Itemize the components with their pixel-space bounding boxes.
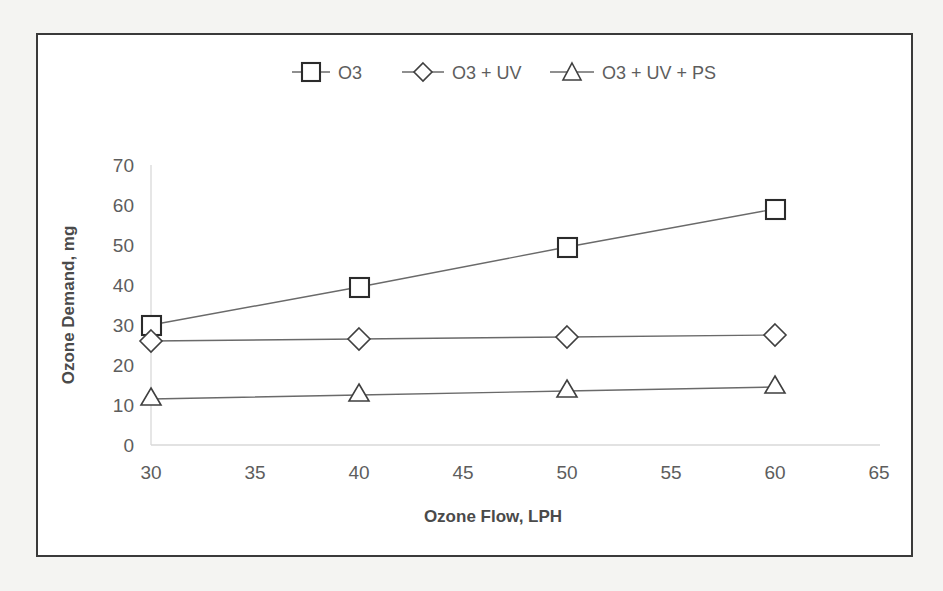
chart-frame: O3 O3 + UV O3 + UV + PS 70 60 <box>36 33 913 557</box>
series-line-o3-uv <box>151 335 775 341</box>
y-axis-tick-labels: 70 60 50 40 30 20 10 0 <box>113 155 134 456</box>
y-axis-title: Ozone Demand, mg <box>59 226 78 385</box>
page-root: O3 O3 + UV O3 + UV + PS 70 60 <box>0 0 943 591</box>
chart-legend: O3 O3 + UV O3 + UV + PS <box>292 63 716 83</box>
data-point-o3-40 <box>350 278 369 297</box>
legend-item-o3[interactable]: O3 <box>292 63 362 83</box>
series-o3 <box>142 200 785 335</box>
data-point-o3-uv-ps-30 <box>141 388 161 405</box>
data-point-o3-uv-40 <box>348 328 370 350</box>
data-point-o3-uv-ps-50 <box>557 380 577 397</box>
line-chart: O3 O3 + UV O3 + UV + PS 70 60 <box>38 35 911 555</box>
x-tick-55: 55 <box>660 462 681 483</box>
y-tick-0: 0 <box>123 435 134 456</box>
series-o3-uv-ps <box>141 376 785 405</box>
legend-item-o3-uv-ps[interactable]: O3 + UV + PS <box>550 63 716 83</box>
y-tick-10: 10 <box>113 395 134 416</box>
legend-label-o3-uv-ps: O3 + UV + PS <box>602 63 716 83</box>
legend-item-o3-uv[interactable]: O3 + UV <box>402 63 522 83</box>
data-point-o3-uv-50 <box>556 326 578 348</box>
series-line-o3-uv-ps <box>151 387 775 399</box>
data-point-o3-60 <box>766 200 785 219</box>
data-point-o3-50 <box>558 238 577 257</box>
y-tick-60: 60 <box>113 195 134 216</box>
data-point-o3-uv-ps-60 <box>765 376 785 393</box>
x-tick-30: 30 <box>140 462 161 483</box>
y-tick-40: 40 <box>113 275 134 296</box>
x-tick-65: 65 <box>868 462 889 483</box>
data-point-o3-uv-60 <box>764 324 786 346</box>
x-tick-45: 45 <box>452 462 473 483</box>
legend-marker-diamond-icon <box>414 63 432 81</box>
x-tick-60: 60 <box>764 462 785 483</box>
legend-label-o3-uv: O3 + UV <box>452 63 522 83</box>
x-tick-40: 40 <box>348 462 369 483</box>
series-o3-uv <box>140 324 786 352</box>
data-point-o3-uv-ps-40 <box>349 384 369 401</box>
legend-label-o3: O3 <box>338 63 362 83</box>
legend-marker-square-icon <box>302 63 320 81</box>
y-tick-50: 50 <box>113 235 134 256</box>
y-tick-70: 70 <box>113 155 134 176</box>
y-tick-30: 30 <box>113 315 134 336</box>
y-tick-20: 20 <box>113 355 134 376</box>
series-line-o3 <box>151 209 775 325</box>
x-tick-50: 50 <box>556 462 577 483</box>
x-axis-title: Ozone Flow, LPH <box>424 507 562 526</box>
x-tick-35: 35 <box>244 462 265 483</box>
x-axis-tick-labels: 30 35 40 45 50 55 60 65 <box>140 462 889 483</box>
